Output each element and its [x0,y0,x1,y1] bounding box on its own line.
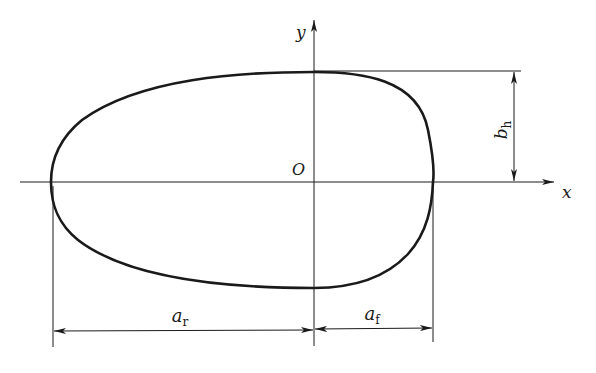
ar-label: ar [172,305,189,329]
x-axis-label: x [562,182,572,202]
egg-diagram: x y O bh ar af [0,0,596,373]
origin-label: O [292,160,305,179]
dimension-bh: bh [491,72,514,181]
egg-outline [51,72,433,288]
bh-label: bh [491,120,514,139]
x-axis: x [20,182,572,202]
dimension-af: af [315,303,432,329]
dimension-ar: ar [54,305,313,331]
y-axis: y [295,20,314,346]
y-axis-label: y [295,22,306,42]
af-label: af [364,303,381,327]
